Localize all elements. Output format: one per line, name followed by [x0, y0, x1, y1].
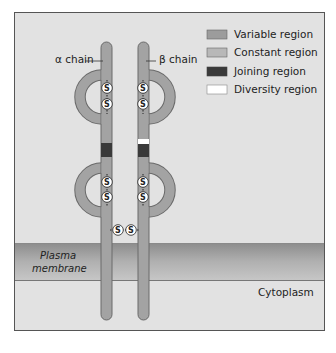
legend-label-joining: Joining region: [233, 65, 306, 77]
legend-swatch-variable: [207, 30, 227, 39]
svg-text:S: S: [104, 193, 110, 202]
svg-text:S: S: [115, 226, 121, 235]
s-bond-alpha-2: S: [102, 99, 113, 110]
svg-text:S: S: [104, 178, 110, 187]
plasma-membrane-label-2: membrane: [32, 263, 87, 274]
svg-text:S: S: [140, 178, 146, 187]
tcr-diagram: S S S S S S S S S S α chain β chain Vari…: [0, 0, 336, 353]
s-bond-beta-4: S: [138, 192, 149, 203]
legend-swatch-joining: [207, 67, 227, 76]
legend-label-diversity: Diversity region: [234, 83, 317, 95]
alpha-chain-label: α chain: [55, 53, 94, 65]
legend-label-constant: Constant region: [234, 46, 318, 58]
s-bond-beta-3: S: [138, 177, 149, 188]
s-bond-alpha-1: S: [102, 83, 113, 94]
s-bond-alpha-4: S: [102, 192, 113, 203]
svg-text:S: S: [104, 100, 110, 109]
s-bond-beta-1: S: [138, 83, 149, 94]
svg-text:S: S: [140, 193, 146, 202]
beta-chain-label: β chain: [159, 53, 197, 65]
svg-text:S: S: [140, 84, 146, 93]
beta-diversity-region: [138, 139, 149, 144]
cytoplasm-label: Cytoplasm: [258, 286, 314, 298]
s-bond-interchain-1: S: [113, 225, 124, 236]
s-bond-beta-2: S: [138, 99, 149, 110]
s-bond-alpha-3: S: [102, 177, 113, 188]
svg-text:S: S: [140, 100, 146, 109]
legend-swatch-diversity: [207, 85, 227, 94]
plasma-membrane: [15, 243, 324, 280]
s-bond-interchain-2: S: [126, 225, 137, 236]
beta-joining-region: [138, 144, 149, 157]
legend-label-variable: Variable region: [234, 28, 313, 40]
legend-swatch-constant: [207, 48, 227, 57]
plasma-membrane-label-1: Plasma: [40, 250, 76, 261]
svg-text:S: S: [104, 84, 110, 93]
svg-text:S: S: [128, 226, 134, 235]
alpha-joining-region: [101, 143, 112, 157]
